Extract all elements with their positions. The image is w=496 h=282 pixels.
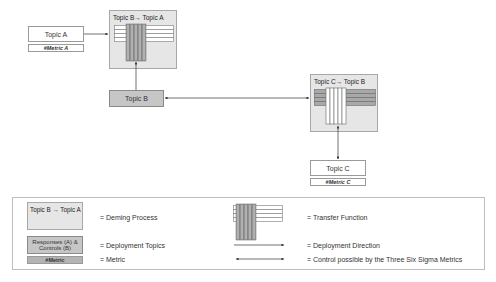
legend-metric-sample-label: #Metric <box>45 257 64 263</box>
legend-metric-desc: = Metric <box>100 256 125 263</box>
legend-topics-sample: Responses (A) & Controls (B) <box>27 236 83 254</box>
legend-deming-sample-label: Topic B → Topic A <box>30 206 81 213</box>
legend-direction-desc: = Deployment Direction <box>307 242 380 249</box>
legend-deming-desc: = Deming Process <box>100 214 157 221</box>
diagram-connectors <box>0 0 496 195</box>
legend-direction-arrow-icon <box>232 242 287 248</box>
legend-transfer-desc: = Transfer Function <box>307 214 368 221</box>
legend-deming-sample: Topic B → Topic A <box>27 202 83 230</box>
legend-control-double-arrow-icon <box>232 256 287 262</box>
legend-topics-sample-label: Responses (A) & Controls (B) <box>32 239 78 252</box>
legend-control-desc: = Control possible by the Three Six Sigm… <box>307 256 462 263</box>
legend-transfer-function-icon <box>233 204 283 242</box>
legend-topics-desc: = Deployment Topics <box>100 242 165 249</box>
legend-metric-sample: #Metric <box>27 256 83 264</box>
